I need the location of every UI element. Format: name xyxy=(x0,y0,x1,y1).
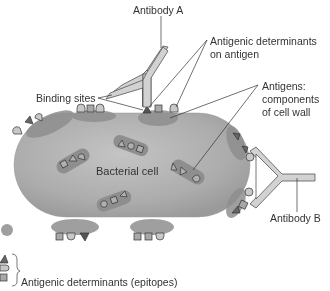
label-antibody-b: Antibody B xyxy=(270,212,321,224)
label-legend-epitopes: Antigenic determinants (epitopes) xyxy=(21,276,177,288)
label-antigenic-determinants-line2: on antigen xyxy=(210,48,259,60)
label-antigens-line2: components xyxy=(262,93,319,105)
antibody-antigen-diagram: Antibody A Antigenic determinants on ant… xyxy=(0,0,330,291)
legend-epitope-shapes xyxy=(0,255,9,281)
label-bacterial-cell: Bacterial cell xyxy=(96,165,158,177)
legend-brace xyxy=(12,254,20,286)
label-antigenic-determinants-line1: Antigenic determinants xyxy=(210,35,317,47)
label-antibody-a: Antibody A xyxy=(133,4,183,16)
antibody-b-shape xyxy=(250,147,315,208)
label-antigens-line3: of cell wall xyxy=(262,106,310,118)
surface-epitopes-bottom xyxy=(56,233,164,241)
label-binding-sites: Binding sites xyxy=(36,92,96,104)
label-antigens-line1: Antigens: xyxy=(262,80,306,92)
